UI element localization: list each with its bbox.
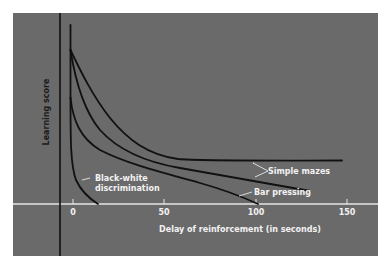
x-axis-title: Delay of reinforcement (in seconds) [159, 225, 321, 234]
chart-panel [13, 13, 378, 256]
x-tick-label-0: 0 [70, 208, 76, 217]
annotation-bar-pressing: Bar pressing [254, 188, 311, 197]
x-tick-label-150: 150 [339, 208, 356, 217]
x-tick-label-50: 50 [158, 208, 170, 217]
learning-curve-chart: Learning score 0 50 100 150 Delay of rei… [0, 0, 391, 270]
x-tick-label-100: 100 [248, 208, 265, 217]
y-axis-title: Learning score [42, 78, 51, 145]
annotation-black-white-line1: Black-white [95, 174, 148, 183]
annotation-simple-mazes: Simple mazes [268, 167, 330, 176]
annotation-black-white-line2: discrimination [95, 184, 160, 193]
